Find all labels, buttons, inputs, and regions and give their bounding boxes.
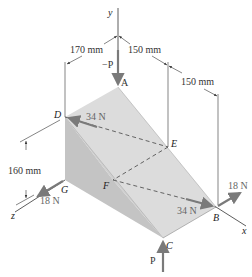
z-axis-label: z	[10, 210, 15, 221]
dim-150-arrow-left	[119, 36, 130, 44]
point-C-label: C	[166, 240, 173, 251]
y-axis-label: y	[107, 7, 113, 18]
dim-150b-arrow-right	[204, 89, 217, 96]
point-E-label: E	[170, 138, 177, 149]
dim-170-arrow-left	[67, 56, 82, 64]
dim-170-label: 170 mm	[70, 44, 103, 55]
point-B-label: B	[213, 212, 219, 223]
force-34n-b-label: 34 N	[177, 205, 197, 216]
x-axis-label: x	[241, 225, 247, 236]
dim-150b-arrow-left	[169, 66, 182, 73]
force-18n-b-arrow	[218, 193, 240, 206]
point-F-label: F	[102, 180, 110, 191]
point-A-label: A	[121, 77, 129, 88]
point-D-label: D	[53, 109, 62, 120]
force-18n-b-label: 18 N	[228, 180, 248, 191]
force-18n-g-arrow	[38, 181, 63, 196]
force-34n-d-label: 34 N	[86, 111, 106, 122]
dim-160-ext-bottom	[16, 195, 34, 205]
x-axis	[216, 207, 246, 226]
force-18n-g-label: 18 N	[40, 195, 60, 206]
point-G-label: G	[61, 184, 68, 195]
dim-150b-label: 150 mm	[181, 76, 214, 87]
force-minus-p-label: −P	[102, 59, 114, 70]
dim-160-label: 160 mm	[8, 165, 41, 176]
dim-150-label: 150 mm	[128, 44, 161, 55]
dim-170-arrow-right	[104, 36, 117, 44]
dim-150-arrow-right	[152, 56, 167, 65]
dim-160-ext-top	[20, 120, 60, 142]
statics-diagram: y z x A D E F G B C 170 mm 150 mm 150 mm…	[0, 0, 252, 277]
force-p-label: P	[150, 255, 156, 266]
